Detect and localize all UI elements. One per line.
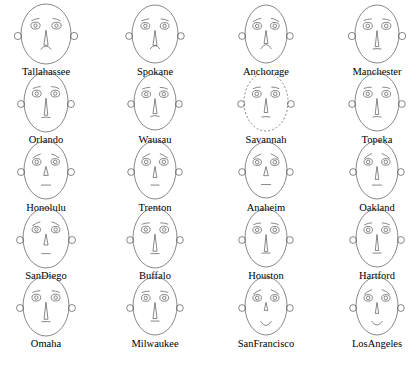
right-pupil xyxy=(273,92,277,96)
left-eye xyxy=(364,226,373,233)
face-outline xyxy=(355,5,399,63)
left-ear xyxy=(18,101,25,108)
chernoff-face-glyph xyxy=(103,2,207,66)
left-ear xyxy=(349,101,356,108)
right-pupil xyxy=(162,160,166,164)
right-eye xyxy=(160,226,169,233)
left-eye xyxy=(142,158,151,165)
left-pupil xyxy=(255,160,259,164)
chernoff-face-cell: Honolulu xyxy=(0,138,98,214)
nose xyxy=(153,166,157,177)
face-outline xyxy=(21,4,71,64)
chernoff-face-cell: Milwaukee xyxy=(103,274,207,350)
left-pupil xyxy=(35,296,38,299)
right-eyebrow xyxy=(51,154,59,158)
left-eyebrow xyxy=(253,154,261,159)
nose xyxy=(153,30,157,45)
left-ear xyxy=(128,169,135,176)
nose xyxy=(375,166,379,179)
face-outline xyxy=(24,141,68,199)
left-eye xyxy=(32,226,40,232)
mouth xyxy=(151,116,160,117)
left-ear xyxy=(128,101,135,108)
chernoff-face-glyph xyxy=(325,70,416,134)
right-pupil xyxy=(273,160,277,164)
right-pupil xyxy=(163,24,166,27)
left-eye xyxy=(363,90,372,97)
left-eyebrow xyxy=(33,154,41,158)
right-ear xyxy=(398,101,405,108)
chernoff-face-glyph xyxy=(214,138,318,202)
right-ear xyxy=(175,169,182,176)
right-pupil xyxy=(384,160,388,164)
left-eyebrow xyxy=(142,87,150,89)
chernoff-faces-grid: TallahasseeSpokaneAnchorageManchesterOrl… xyxy=(0,0,416,369)
left-pupil xyxy=(255,24,259,28)
chernoff-face-cell: Spokane xyxy=(103,2,207,78)
right-pupil xyxy=(384,296,388,300)
left-pupil xyxy=(366,296,370,300)
chernoff-face-cell: Manchester xyxy=(325,2,416,78)
right-pupil xyxy=(273,24,277,28)
chernoff-face-cell: Oakland xyxy=(325,138,416,214)
nose xyxy=(375,302,378,313)
right-ear xyxy=(287,101,294,108)
chernoff-face-glyph xyxy=(0,2,98,66)
right-eyebrow xyxy=(160,291,168,292)
right-eyebrow xyxy=(161,19,169,21)
mouth xyxy=(372,321,383,325)
left-eye xyxy=(253,22,262,29)
nose xyxy=(153,302,157,318)
left-ear xyxy=(126,33,133,40)
chernoff-face-cell: Anaheim xyxy=(214,138,318,214)
left-ear xyxy=(127,237,134,244)
nose xyxy=(44,234,48,245)
face-outline xyxy=(356,209,398,267)
nose xyxy=(375,234,378,250)
right-eye xyxy=(51,159,59,166)
chernoff-face-cell: Orlando xyxy=(0,70,98,146)
left-eye xyxy=(364,295,372,302)
chernoff-face-glyph xyxy=(325,206,416,270)
chernoff-face-cell: Trenton xyxy=(103,138,207,214)
right-eye xyxy=(271,295,279,302)
left-eyebrow xyxy=(253,223,261,225)
face-outline xyxy=(134,141,176,199)
nose xyxy=(44,98,48,115)
nose xyxy=(44,302,48,319)
right-eye xyxy=(160,91,169,98)
face-outline xyxy=(245,277,287,335)
right-eyebrow xyxy=(271,18,279,21)
right-pupil xyxy=(53,160,57,164)
right-eye xyxy=(160,23,169,30)
left-eyebrow xyxy=(253,18,261,21)
face-outline xyxy=(245,5,287,63)
right-eyebrow xyxy=(52,291,60,293)
right-eyebrow xyxy=(271,154,279,159)
chernoff-face-cell: Topeka xyxy=(325,70,416,146)
left-ear xyxy=(127,305,134,312)
left-eye xyxy=(364,159,372,166)
left-eyebrow xyxy=(364,290,372,295)
right-pupil xyxy=(384,228,388,232)
right-ear xyxy=(177,33,184,40)
right-eye xyxy=(382,226,391,233)
left-pupil xyxy=(144,160,148,164)
right-ear xyxy=(67,169,74,176)
left-pupil xyxy=(255,228,259,232)
chernoff-face-cell: Anchorage xyxy=(214,2,318,78)
right-pupil xyxy=(54,296,57,299)
right-eyebrow xyxy=(382,223,390,225)
right-ear xyxy=(397,237,404,244)
nose xyxy=(375,98,379,114)
right-eye xyxy=(382,22,391,29)
right-eyebrow xyxy=(160,154,168,158)
left-eye xyxy=(141,23,150,30)
right-ear xyxy=(286,33,293,40)
mouth xyxy=(262,117,271,118)
left-ear xyxy=(239,33,246,40)
nose xyxy=(44,30,48,45)
left-ear xyxy=(17,305,24,312)
left-eyebrow xyxy=(142,223,150,224)
face-outline xyxy=(133,208,177,268)
